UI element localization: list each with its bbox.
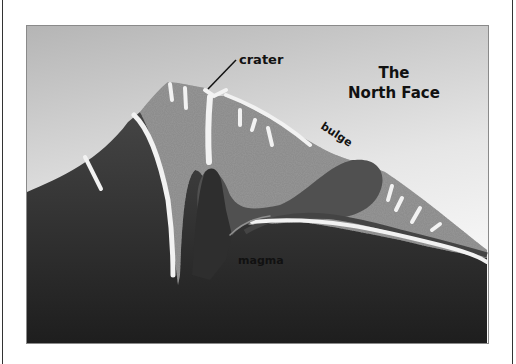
magma-label: magma (238, 254, 284, 267)
volcano-diagram-panel: crater The North Face bulge magma (26, 25, 489, 344)
volcano-cross-section: crater The North Face bulge magma (27, 26, 488, 343)
frame-left-line (2, 0, 3, 364)
crater-label: crater (239, 52, 284, 67)
title-line-2: North Face (348, 84, 440, 102)
frame-right-line (512, 0, 513, 364)
title-line-1: The (378, 64, 409, 82)
